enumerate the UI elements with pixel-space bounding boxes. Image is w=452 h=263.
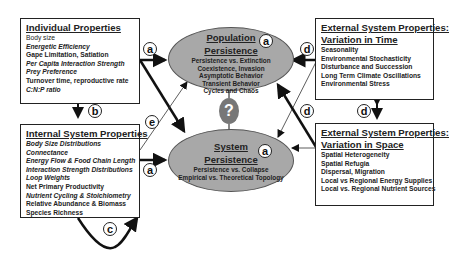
- population-item: Asymptotic Behavior: [169, 72, 293, 80]
- individual-item: Prey Preference: [26, 68, 134, 77]
- individual-properties-box: Individual Properties Body size Energeti…: [20, 18, 140, 104]
- badge-b: b: [88, 104, 102, 118]
- individual-item: Turnover time, reproductive rate: [26, 77, 134, 86]
- time-title-line1: External System Properties:: [321, 22, 428, 34]
- variation-in-space-box: External System Properties: Variation in…: [315, 123, 434, 206]
- question-mark-icon: ?: [219, 98, 239, 124]
- internal-item: Energy Flow & Food Chain Length: [26, 157, 134, 166]
- individual-properties-title: Individual Properties: [26, 22, 134, 34]
- system-persistence-ellipse: System Persistence Persistence vs. Colla…: [168, 129, 294, 192]
- space-title-line1: External System Properties:: [321, 127, 428, 139]
- internal-item: Relative Abundance & Biomass: [26, 200, 134, 209]
- population-item: Transient Behavior: [169, 80, 293, 88]
- population-item: Cycles and Chaos: [169, 87, 293, 95]
- space-item: Dispersal, Migration: [321, 168, 428, 177]
- internal-item: Body Size Distributions: [26, 140, 134, 149]
- internal-item: Species Richness: [26, 209, 134, 218]
- system-item: Persistence vs. Collapse: [169, 166, 293, 174]
- population-item: Coexistence, Invasion: [169, 65, 293, 73]
- space-item: Spatial Heterogeneity: [321, 151, 428, 160]
- system-title-line1: System: [169, 141, 293, 154]
- badge-d-between: d: [357, 104, 371, 118]
- badge-d-time: d: [300, 42, 314, 56]
- population-persistence-ellipse: Population Persistence Persistence vs. E…: [168, 27, 294, 91]
- space-title-line2: Variation in Space: [321, 139, 428, 151]
- individual-item: Energetic Efficiency: [26, 43, 134, 52]
- internal-item: Nutrient Cycling & Stoichiometry: [26, 192, 134, 201]
- space-item: Local vs. Regional Nutrient Sources: [321, 185, 428, 194]
- internal-item: Loop Weights: [26, 174, 134, 183]
- badge-a-system: a: [258, 144, 272, 158]
- population-title-line2: Persistence: [169, 45, 293, 58]
- badge-d-space: d: [300, 104, 314, 118]
- time-item: Environmental Stress: [321, 80, 428, 89]
- badge-a-population: a: [259, 34, 273, 48]
- space-item: Local vs Regional Energy Supplies: [321, 177, 428, 186]
- population-item: Persistence vs. Extinction: [169, 57, 293, 65]
- internal-system-properties-box: Internal System Properties Body Size Dis…: [20, 124, 140, 218]
- badge-e: e: [145, 115, 159, 129]
- system-title-line2: Persistence: [169, 154, 293, 167]
- individual-item: Per Capita Interaction Strength: [26, 60, 134, 69]
- individual-item: Gape Limitation, Satiation: [26, 51, 134, 60]
- space-item: Spatial Refugia: [321, 160, 428, 169]
- time-item: Environmental Stochasticity: [321, 55, 428, 64]
- population-title-line1: Population: [169, 32, 293, 45]
- time-item: Seasonality: [321, 46, 428, 55]
- internal-system-properties-title: Internal System Properties: [26, 128, 134, 140]
- internal-item: Net Primary Productivity: [26, 183, 134, 192]
- system-item: Empirical vs. Theoretical Topology: [169, 174, 293, 182]
- individual-item: Body size: [26, 34, 134, 43]
- variation-in-time-box: External System Properties: Variation in…: [315, 18, 434, 100]
- badge-c: c: [103, 222, 117, 236]
- individual-item: C:N:P ratio: [26, 86, 134, 95]
- time-item: Disturbance and Succession: [321, 63, 428, 72]
- time-title-line2: Variation in Time: [321, 34, 428, 46]
- time-item: Long Term Climate Oscillations: [321, 72, 428, 81]
- internal-item: Connectance: [26, 149, 134, 158]
- internal-item: Interaction Strength Distributions: [26, 166, 134, 175]
- badge-a-individual: a: [143, 42, 157, 56]
- badge-a-internal: a: [143, 163, 157, 177]
